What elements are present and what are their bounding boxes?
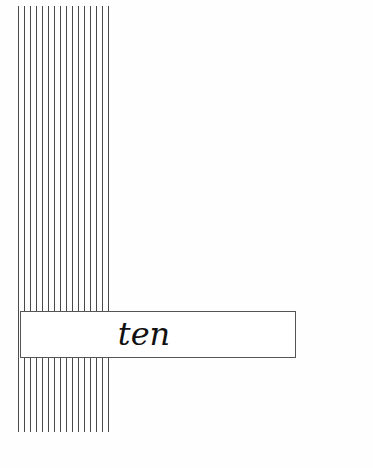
stripe-line bbox=[18, 6, 19, 432]
chapter-title: ten bbox=[21, 314, 295, 354]
stripe-line bbox=[30, 6, 31, 432]
stripe-line bbox=[36, 6, 37, 432]
stripe-line bbox=[54, 6, 55, 432]
stripe-line bbox=[72, 6, 73, 432]
stripe-line bbox=[24, 6, 25, 432]
chapter-opening-page: ten bbox=[0, 0, 373, 468]
decorative-stripes bbox=[18, 6, 109, 432]
stripe-line bbox=[96, 6, 97, 432]
stripe-line bbox=[102, 6, 103, 432]
stripe-line bbox=[66, 6, 67, 432]
stripe-line bbox=[78, 6, 79, 432]
stripe-line bbox=[60, 6, 61, 432]
stripe-line bbox=[90, 6, 91, 432]
stripe-line bbox=[108, 6, 109, 432]
chapter-title-box: ten bbox=[20, 311, 296, 358]
stripe-line bbox=[42, 6, 43, 432]
stripe-line bbox=[48, 6, 49, 432]
stripe-line bbox=[84, 6, 85, 432]
